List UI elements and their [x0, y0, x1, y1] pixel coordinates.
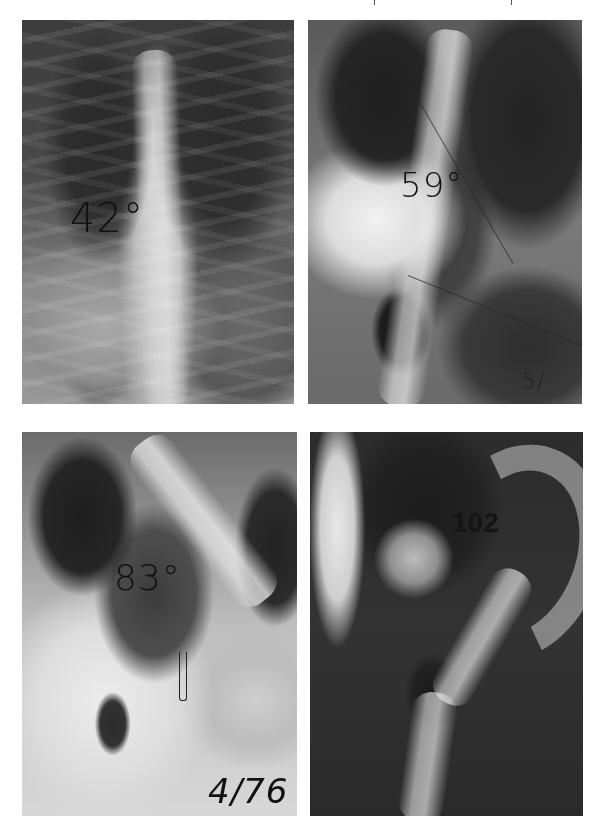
xray-panel-top-left: 42°: [22, 20, 294, 404]
date-mark: 4/76: [208, 774, 288, 808]
xray-panel-bottom-right: 102: [310, 432, 583, 816]
rib-pattern: [22, 20, 294, 404]
corner-mark: 5/: [522, 370, 545, 392]
cobb-angle-label: 59°: [400, 168, 463, 202]
cobb-angle-label: 102: [452, 509, 499, 537]
cobb-angle-label: 83°: [114, 560, 181, 596]
xray-panel-top-right: 59° 5/: [308, 20, 582, 404]
wire-marker: [179, 652, 187, 701]
tick-mark: [374, 0, 375, 5]
cobb-angle-label: 42°: [70, 198, 144, 238]
page-top-marks: [0, 0, 603, 18]
tick-mark: [511, 0, 512, 5]
xray-panel-bottom-left: 83° 4/76: [22, 432, 297, 816]
